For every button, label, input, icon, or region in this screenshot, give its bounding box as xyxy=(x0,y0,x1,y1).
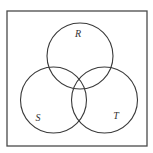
set-t-label: T xyxy=(113,110,120,121)
set-s-label: S xyxy=(36,112,41,123)
venn-diagram: R S T xyxy=(0,0,153,153)
set-s-circle xyxy=(21,67,87,133)
set-r-label: R xyxy=(74,28,81,39)
set-t-circle xyxy=(72,67,138,133)
